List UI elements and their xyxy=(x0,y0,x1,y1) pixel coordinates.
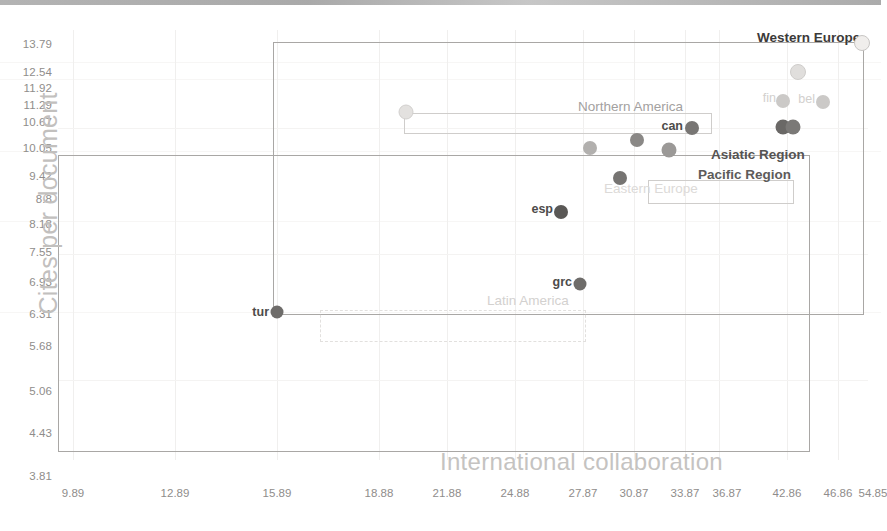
data-point-label-tur: tur xyxy=(252,305,272,319)
region-label-pacific-region: Pacific Region xyxy=(698,167,791,182)
data-point-unlabeled-2[interactable] xyxy=(583,141,597,155)
x-tick: 27.87 xyxy=(569,487,598,499)
data-point-western-europe-corner[interactable] xyxy=(854,35,870,51)
region-label-asiatic-region: Asiatic Region xyxy=(711,147,805,162)
x-tick: 21.88 xyxy=(433,487,462,499)
y-tick: 13.79 xyxy=(4,38,52,50)
y-tick: 5.68 xyxy=(4,340,52,352)
data-point-label-esp: esp xyxy=(531,202,556,216)
data-point-tur[interactable] xyxy=(271,306,284,319)
x-tick: 15.89 xyxy=(263,487,292,499)
y-tick: 3.81 xyxy=(4,470,52,482)
data-point-esp[interactable] xyxy=(554,205,568,219)
region-label-western-europe: Western Europe xyxy=(757,30,860,45)
data-point-unlabeled-6[interactable] xyxy=(790,64,806,80)
data-point-label-can: can xyxy=(661,119,686,133)
x-tick: 46.86 xyxy=(824,487,853,499)
region-box-latin-america xyxy=(320,310,586,342)
x-tick: 36.87 xyxy=(713,487,742,499)
data-point-label-grc: grc xyxy=(553,275,575,289)
region-label-northern-america: Northern America xyxy=(578,99,683,114)
x-tick: 18.88 xyxy=(365,487,394,499)
x-tick: 33.87 xyxy=(671,487,700,499)
data-point-unlabeled-8[interactable] xyxy=(786,120,801,135)
data-point-label-bel: bel xyxy=(798,92,818,106)
x-tick: 30.87 xyxy=(620,487,649,499)
x-tick: 42.86 xyxy=(773,487,802,499)
y-tick: 4.43 xyxy=(4,427,52,439)
data-point-unlabeled-4[interactable] xyxy=(662,143,677,158)
x-axis-title: International collaboration xyxy=(440,448,723,476)
data-point-unlabeled-3[interactable] xyxy=(630,133,644,147)
data-point-can[interactable] xyxy=(685,121,699,135)
y-tick: 5.06 xyxy=(4,385,52,397)
y-tick: 12.54 xyxy=(4,66,52,78)
data-point-unlabeled-5[interactable] xyxy=(613,171,627,185)
x-tick: 24.88 xyxy=(501,487,530,499)
y-axis-title: Cites per document xyxy=(34,95,63,315)
data-point-bel[interactable] xyxy=(816,95,830,109)
data-point-unlabeled-1[interactable] xyxy=(399,105,414,120)
data-point-label-fin: fin xyxy=(763,91,779,105)
x-tick: 54.85 xyxy=(859,487,887,499)
x-tick: 12.89 xyxy=(161,487,190,499)
x-tick: 9.89 xyxy=(62,487,84,499)
data-point-grc[interactable] xyxy=(574,278,587,291)
region-label-latin-america: Latin America xyxy=(487,293,569,308)
